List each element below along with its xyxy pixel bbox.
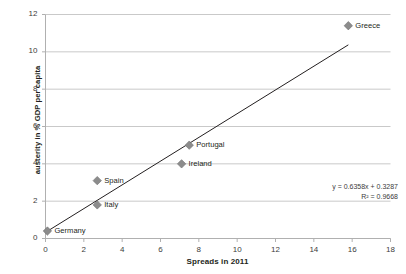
r-squared-value: R² = 0.9668: [300, 192, 398, 202]
x-tick-label-14: 14: [302, 245, 326, 254]
scatter-chart: austerity in % GDP per capita Spreads in…: [0, 0, 406, 274]
x-tick-label-0: 0: [34, 245, 58, 254]
y-tick-label-6: 6: [10, 121, 38, 130]
y-tick-label-8: 8: [10, 84, 38, 93]
data-point-portugal[interactable]: [185, 141, 193, 149]
marker-diamond-portugal[interactable]: [185, 141, 193, 149]
x-axis-label: Spreads in 2011: [45, 257, 390, 266]
x-tick-label-4: 4: [110, 245, 134, 254]
y-tick-label-12: 12: [10, 9, 38, 18]
regression-equation: y = 0.6358x + 0.3287: [300, 182, 398, 192]
marker-diamond-germany[interactable]: [43, 227, 51, 235]
x-tick-label-8: 8: [187, 245, 211, 254]
point-label-greece: Greece: [355, 21, 380, 30]
y-tick-label-0: 0: [10, 233, 38, 242]
data-point-spain[interactable]: [93, 176, 101, 184]
data-point-germany[interactable]: [43, 227, 51, 235]
marker-diamond-greece[interactable]: [344, 22, 352, 30]
x-tick-label-16: 16: [340, 245, 364, 254]
x-tick-label-10: 10: [225, 245, 249, 254]
y-axis-label: austerity in % GDP per capita: [33, 35, 42, 205]
y-tick-label-10: 10: [10, 46, 38, 55]
marker-diamond-ireland[interactable]: [177, 160, 185, 168]
trend-line: [47, 45, 348, 231]
point-label-italy: Italy: [104, 200, 118, 209]
regression-annotation: y = 0.6358x + 0.3287 R² = 0.9668: [300, 182, 398, 202]
point-label-portugal: Portugal: [196, 140, 224, 149]
x-tick-label-6: 6: [149, 245, 173, 254]
point-label-spain: Spain: [104, 176, 123, 185]
y-tick-label-2: 2: [10, 196, 38, 205]
data-point-ireland[interactable]: [177, 160, 185, 168]
marker-diamond-spain[interactable]: [93, 176, 101, 184]
x-tick-label-18: 18: [379, 245, 403, 254]
x-tick-label-2: 2: [72, 245, 96, 254]
point-label-germany: Germany: [54, 226, 85, 235]
y-tick-label-4: 4: [10, 158, 38, 167]
data-point-greece[interactable]: [344, 22, 352, 30]
x-tick-label-12: 12: [264, 245, 288, 254]
point-label-ireland: Ireland: [189, 159, 212, 168]
